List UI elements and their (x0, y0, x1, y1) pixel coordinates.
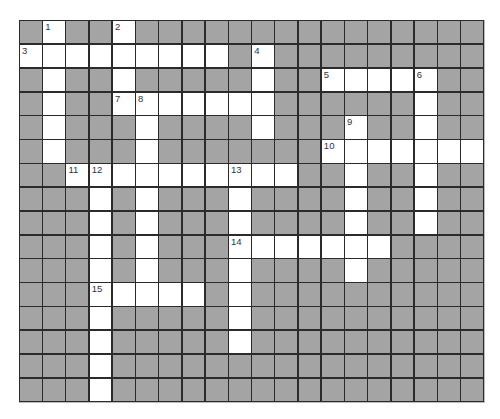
crossword-cell[interactable] (113, 69, 135, 91)
blocked-cell (20, 283, 42, 305)
crossword-cell[interactable]: 12 (90, 164, 112, 186)
crossword-cell[interactable]: 6 (415, 69, 437, 91)
crossword-cell[interactable]: 9 (345, 116, 367, 138)
crossword-cell[interactable] (183, 164, 205, 186)
crossword-cell[interactable] (206, 45, 228, 67)
crossword-cell[interactable] (252, 164, 274, 186)
blocked-cell (66, 307, 88, 329)
crossword-cell[interactable] (136, 259, 158, 281)
crossword-cell[interactable]: 3 (20, 45, 42, 67)
crossword-cell[interactable] (90, 355, 112, 377)
crossword-cell[interactable] (368, 236, 390, 258)
crossword-cell[interactable] (275, 236, 297, 258)
crossword-cell[interactable] (345, 236, 367, 258)
crossword-cell[interactable]: 13 (229, 164, 251, 186)
crossword-cell[interactable] (159, 164, 181, 186)
crossword-cell[interactable] (90, 331, 112, 353)
crossword-cell[interactable] (206, 93, 228, 115)
crossword-cell[interactable] (136, 236, 158, 258)
crossword-cell[interactable] (183, 93, 205, 115)
crossword-cell[interactable] (415, 164, 437, 186)
crossword-cell[interactable] (43, 45, 65, 67)
crossword-cell[interactable] (252, 116, 274, 138)
blocked-cell (345, 93, 367, 115)
crossword-cell[interactable] (183, 45, 205, 67)
crossword-cell[interactable] (90, 236, 112, 258)
crossword-cell[interactable] (415, 140, 437, 162)
crossword-cell[interactable]: 10 (322, 140, 344, 162)
crossword-cell[interactable] (415, 93, 437, 115)
crossword-cell[interactable] (183, 283, 205, 305)
crossword-cell[interactable] (136, 188, 158, 210)
crossword-cell[interactable] (43, 116, 65, 138)
crossword-cell[interactable] (275, 164, 297, 186)
crossword-cell[interactable]: 2 (113, 21, 135, 43)
crossword-cell[interactable]: 4 (252, 45, 274, 67)
crossword-cell[interactable] (368, 140, 390, 162)
blocked-cell (43, 212, 65, 234)
crossword-cell[interactable] (345, 69, 367, 91)
crossword-cell[interactable] (90, 307, 112, 329)
crossword-cell[interactable] (159, 93, 181, 115)
crossword-cell[interactable] (136, 164, 158, 186)
crossword-cell[interactable]: 1 (43, 21, 65, 43)
crossword-cell[interactable] (43, 69, 65, 91)
blocked-cell (275, 93, 297, 115)
crossword-cell[interactable] (90, 212, 112, 234)
crossword-cell[interactable] (229, 331, 251, 353)
crossword-cell[interactable] (229, 212, 251, 234)
crossword-cell[interactable] (345, 140, 367, 162)
crossword-cell[interactable] (90, 379, 112, 401)
crossword-cell[interactable] (229, 93, 251, 115)
crossword-cell[interactable]: 7 (113, 93, 135, 115)
crossword-cell[interactable] (461, 140, 483, 162)
crossword-cell[interactable] (415, 212, 437, 234)
crossword-cell[interactable] (368, 69, 390, 91)
crossword-cell[interactable] (66, 45, 88, 67)
blocked-cell (438, 331, 460, 353)
crossword-cell[interactable] (299, 236, 321, 258)
crossword-cell[interactable] (392, 140, 414, 162)
crossword-cell[interactable] (113, 283, 135, 305)
crossword-cell[interactable] (229, 307, 251, 329)
crossword-cell[interactable] (136, 212, 158, 234)
crossword-cell[interactable] (113, 45, 135, 67)
blocked-cell (159, 355, 181, 377)
crossword-cell[interactable]: 15 (90, 283, 112, 305)
crossword-cell[interactable] (345, 188, 367, 210)
crossword-cell[interactable]: 8 (136, 93, 158, 115)
crossword-cell[interactable] (229, 283, 251, 305)
crossword-cell[interactable] (252, 93, 274, 115)
crossword-cell[interactable] (206, 164, 228, 186)
crossword-cell[interactable] (322, 236, 344, 258)
crossword-cell[interactable] (345, 212, 367, 234)
crossword-cell[interactable] (43, 93, 65, 115)
crossword-cell[interactable] (43, 140, 65, 162)
crossword-cell[interactable] (136, 140, 158, 162)
crossword-cell[interactable] (438, 140, 460, 162)
crossword-cell[interactable] (136, 45, 158, 67)
crossword-cell[interactable] (415, 188, 437, 210)
crossword-cell[interactable]: 11 (66, 164, 88, 186)
crossword-cell[interactable] (113, 164, 135, 186)
crossword-cell[interactable] (252, 236, 274, 258)
crossword-cell[interactable] (136, 283, 158, 305)
crossword-cell[interactable] (415, 116, 437, 138)
blocked-cell (113, 355, 135, 377)
crossword-cell[interactable]: 5 (322, 69, 344, 91)
crossword-cell[interactable] (90, 259, 112, 281)
crossword-cell[interactable] (159, 283, 181, 305)
blocked-cell (206, 140, 228, 162)
crossword-cell[interactable] (345, 164, 367, 186)
blocked-cell (275, 212, 297, 234)
crossword-cell[interactable] (90, 45, 112, 67)
crossword-cell[interactable] (392, 69, 414, 91)
crossword-cell[interactable] (159, 45, 181, 67)
crossword-cell[interactable] (229, 259, 251, 281)
crossword-cell[interactable] (252, 69, 274, 91)
crossword-cell[interactable]: 14 (229, 236, 251, 258)
crossword-cell[interactable] (345, 259, 367, 281)
crossword-cell[interactable] (90, 188, 112, 210)
crossword-cell[interactable] (229, 188, 251, 210)
crossword-cell[interactable] (136, 116, 158, 138)
